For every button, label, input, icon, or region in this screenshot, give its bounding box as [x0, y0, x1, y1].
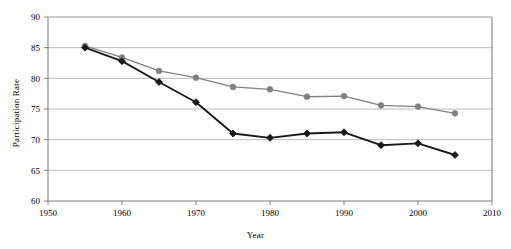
data-point-marker: [378, 102, 384, 108]
y-tick-label: 70: [31, 135, 41, 145]
x-tick-label: 1950: [39, 208, 58, 218]
y-tick-label: 65: [31, 166, 41, 176]
series-black-series: [82, 44, 459, 158]
data-point-marker: [452, 110, 458, 116]
x-tick-label: 1970: [187, 208, 206, 218]
x-tick-label: 1990: [335, 208, 354, 218]
y-axis-tick-labels: 60657075808590: [31, 12, 41, 206]
data-point-marker: [415, 140, 422, 147]
y-tick-label: 80: [31, 74, 41, 84]
series-layer: [82, 43, 459, 159]
gridlines: [48, 17, 492, 170]
y-axis-ticks: [44, 17, 48, 201]
x-tick-label: 1980: [261, 208, 280, 218]
series-gray-series: [82, 43, 458, 116]
y-tick-label: 60: [31, 196, 41, 206]
y-axis-title-wrap: Participation Rate: [2, 0, 18, 249]
x-tick-label: 2010: [483, 208, 502, 218]
data-point-marker: [304, 130, 311, 137]
y-axis-title: Participation Rate: [11, 53, 21, 173]
x-tick-label: 1960: [113, 208, 132, 218]
data-point-marker: [415, 104, 421, 110]
data-point-marker: [156, 68, 162, 74]
chart-container: 1950196019701980199020002010 60657075808…: [0, 0, 511, 249]
data-point-marker: [378, 142, 385, 149]
data-point-marker: [267, 86, 273, 92]
x-axis-tick-labels: 1950196019701980199020002010: [39, 208, 502, 218]
data-point-marker: [341, 93, 347, 99]
y-tick-label: 85: [31, 43, 41, 53]
x-axis-ticks: [48, 201, 492, 205]
data-point-marker: [452, 152, 459, 159]
y-tick-label: 75: [31, 104, 41, 114]
data-point-marker: [304, 94, 310, 100]
data-point-marker: [341, 129, 348, 136]
data-point-marker: [193, 75, 199, 81]
data-point-marker: [267, 134, 274, 141]
x-tick-label: 2000: [409, 208, 428, 218]
y-tick-label: 90: [31, 12, 41, 22]
data-point-marker: [230, 84, 236, 90]
x-axis-title: Year: [0, 230, 511, 240]
line-chart: 1950196019701980199020002010 60657075808…: [0, 0, 511, 249]
